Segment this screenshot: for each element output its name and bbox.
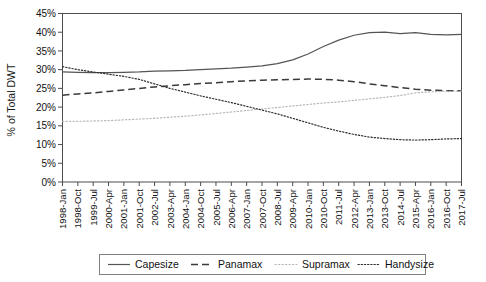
x-tick-label: 2017-Jul bbox=[456, 189, 467, 226]
x-tick-label: 2003-Apr bbox=[165, 188, 176, 228]
y-tick-label: 40% bbox=[36, 27, 56, 38]
x-tick-label: 2009-Apr bbox=[287, 188, 298, 228]
x-tick-label: 2001-Oct bbox=[134, 189, 145, 229]
legend-label-handysize: Handysize bbox=[385, 258, 434, 270]
y-axis-title-group: % of Total DWT bbox=[5, 63, 17, 136]
series-line-handysize bbox=[63, 67, 462, 140]
y-tick-label: 15% bbox=[36, 120, 56, 131]
x-tick-label: 2010-Oct bbox=[318, 189, 329, 229]
legend-label-capesize: Capesize bbox=[135, 258, 179, 270]
x-tick-label: 1998-Jan bbox=[57, 189, 68, 229]
x-tick-label: 2011-Jul bbox=[333, 189, 344, 225]
plot-frame bbox=[63, 14, 462, 183]
y-tick-label: 25% bbox=[36, 83, 56, 94]
legend-label-panamax: Panamax bbox=[218, 258, 263, 270]
x-tick-label: 2014-Jul bbox=[395, 189, 406, 226]
x-tick-label: 2000-Apr bbox=[103, 188, 114, 228]
line-chart: % of Total DWT 0%5%10%15%20%25%30%35%40%… bbox=[0, 0, 486, 282]
y-tick-label: 0% bbox=[42, 177, 57, 188]
y-tick-label: 35% bbox=[36, 46, 56, 57]
x-tick-label: 2005-Jul bbox=[211, 189, 222, 226]
x-tick-label: 2008-Jul bbox=[272, 189, 283, 226]
x-tick-label: 1999-Jul bbox=[88, 189, 99, 226]
y-tick-mark-group bbox=[58, 14, 63, 183]
y-tick-label-group: 0%5%10%15%20%25%30%35%40%45% bbox=[36, 8, 56, 188]
x-tick-label: 2007-Jan bbox=[241, 189, 252, 229]
x-tick-label: 2016-Jan bbox=[425, 189, 436, 229]
chart-container: % of Total DWT 0%5%10%15%20%25%30%35%40%… bbox=[0, 0, 486, 282]
x-tick-label: 2004-Oct bbox=[195, 189, 206, 229]
x-tick-label: 2004-Jan bbox=[180, 189, 191, 229]
x-tick-label: 2013-Oct bbox=[379, 189, 390, 229]
plot-area-border bbox=[63, 14, 462, 183]
x-tick-label: 2015-Apr bbox=[410, 188, 421, 228]
x-tick-label: 2002-Jul bbox=[149, 189, 160, 226]
y-tick-label: 5% bbox=[42, 158, 57, 169]
series-line-capesize bbox=[63, 32, 462, 72]
x-tick-label: 1998-Oct bbox=[72, 189, 83, 229]
x-tick-label: 2012-Apr bbox=[349, 188, 360, 228]
x-tick-label: 2016-Oct bbox=[441, 189, 452, 229]
x-tick-label: 2006-Apr bbox=[226, 188, 237, 228]
series-line-panamax bbox=[63, 79, 462, 95]
y-tick-label: 10% bbox=[36, 139, 56, 150]
x-tick-mark-group bbox=[63, 182, 462, 186]
series-group bbox=[63, 32, 462, 140]
y-tick-label: 30% bbox=[36, 64, 56, 75]
x-tick-label: 2007-Oct bbox=[257, 189, 268, 229]
legend-label-supramax: Supramax bbox=[302, 258, 351, 270]
x-tick-label: 2013-Jan bbox=[364, 189, 375, 229]
y-tick-label: 45% bbox=[36, 8, 56, 19]
y-axis-title: % of Total DWT bbox=[5, 63, 17, 136]
y-tick-label: 20% bbox=[36, 102, 56, 113]
x-tick-label-group: 1998-Jan1998-Oct1999-Jul2000-Apr2001-Jan… bbox=[57, 188, 467, 229]
series-line-supramax bbox=[63, 91, 462, 121]
x-tick-label: 2010-Jan bbox=[303, 189, 314, 229]
chart-legend: CapesizePanamaxSupramaxHandysize bbox=[100, 255, 435, 275]
x-tick-label: 2001-Jan bbox=[118, 189, 129, 229]
